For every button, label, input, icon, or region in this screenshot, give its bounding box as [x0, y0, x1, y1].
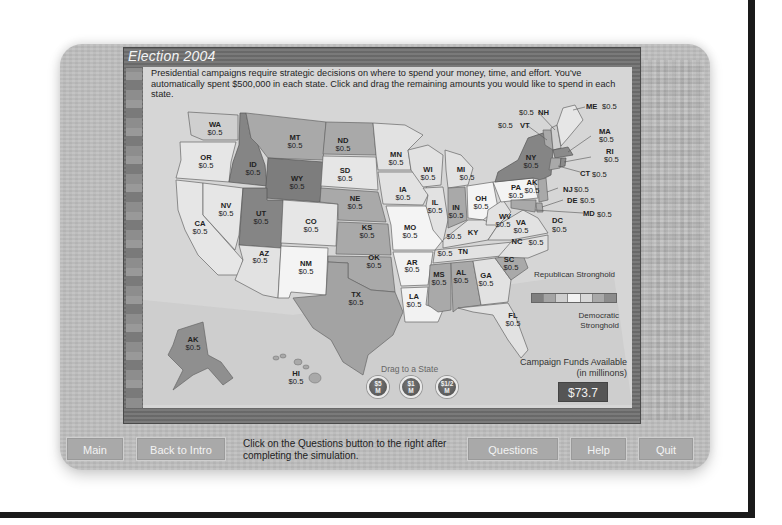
decorative-pattern [640, 60, 704, 420]
back-to-intro-button[interactable]: Back to Intro [136, 437, 226, 461]
coin-5m[interactable]: $5 M [367, 376, 389, 398]
svg-text:$0.5: $0.5 [438, 249, 453, 258]
svg-text:KY: KY [468, 228, 479, 237]
drag-instructions: Drag to a State [381, 364, 438, 374]
svg-text:NJ: NJ [563, 185, 573, 194]
footer-message: Click on the Questions button to the rig… [243, 438, 453, 462]
svg-text:$0.5: $0.5 [479, 279, 494, 288]
svg-text:$0.5: $0.5 [496, 220, 511, 229]
svg-text:NC: NC [512, 237, 523, 246]
svg-text:$0.5: $0.5 [199, 161, 214, 170]
instructions-text: Presidential campaigns require strategic… [151, 68, 631, 100]
page-right-border [748, 0, 755, 518]
svg-text:$0.5: $0.5 [208, 128, 223, 137]
svg-text:DC: DC [552, 216, 563, 225]
svg-text:$0.5: $0.5 [519, 108, 534, 117]
help-button[interactable]: Help [570, 437, 627, 461]
svg-text:$0.5: $0.5 [498, 121, 513, 130]
svg-text:$0.5: $0.5 [460, 173, 475, 182]
svg-text:VT: VT [520, 121, 530, 130]
legend-swatch [568, 294, 580, 302]
state-ME[interactable] [557, 105, 583, 146]
svg-text:NH: NH [538, 108, 549, 117]
svg-text:$0.5: $0.5 [474, 202, 489, 211]
svg-text:TN: TN [458, 247, 468, 256]
svg-text:ME: ME [586, 102, 597, 111]
svg-text:$0.5: $0.5 [360, 231, 375, 240]
window-title: Election 2004 [128, 47, 215, 66]
main-button[interactable]: Main [66, 437, 124, 461]
svg-text:$0.5: $0.5 [525, 186, 540, 195]
svg-text:$0.5: $0.5 [348, 202, 363, 211]
legend-democratic-label: Democratic Stronghold [563, 311, 619, 330]
state-RI[interactable] [560, 158, 566, 167]
quit-button[interactable]: Quit [638, 437, 694, 461]
svg-text:$0.5: $0.5 [449, 211, 464, 220]
coin-half-m[interactable]: $1/2 M [436, 376, 458, 398]
svg-text:$0.5: $0.5 [509, 191, 524, 200]
svg-text:$0.5: $0.5 [290, 182, 305, 191]
decorative-strip [126, 68, 142, 408]
svg-text:$0.5: $0.5 [506, 319, 521, 328]
svg-text:$0.5: $0.5 [407, 300, 422, 309]
svg-text:$0.5: $0.5 [524, 161, 539, 170]
state-CT[interactable] [549, 158, 561, 170]
svg-text:$0.5: $0.5 [186, 343, 201, 352]
svg-text:$0.5: $0.5 [602, 102, 617, 111]
svg-text:$0.5: $0.5 [367, 261, 382, 270]
svg-text:$0.5: $0.5 [396, 193, 411, 202]
page-bottom-border [0, 512, 755, 518]
svg-text:$0.5: $0.5 [428, 206, 443, 215]
svg-text:$0.5: $0.5 [288, 141, 303, 150]
svg-text:$0.5: $0.5 [447, 232, 462, 241]
campaign-funds-value: $73.7 [558, 382, 608, 402]
svg-text:$0.5: $0.5 [349, 298, 364, 307]
svg-text:$0.5: $0.5 [405, 265, 420, 274]
svg-text:$0.5: $0.5 [193, 227, 208, 236]
svg-text:$0.5: $0.5 [552, 225, 567, 234]
svg-text:$0.5: $0.5 [432, 278, 447, 287]
svg-text:$0.5: $0.5 [219, 209, 234, 218]
legend-swatch [544, 294, 556, 302]
svg-text:$0.5: $0.5 [299, 267, 314, 276]
svg-text:DE: DE [567, 196, 578, 205]
svg-text:$0.5: $0.5 [336, 144, 351, 153]
svg-text:$0.5: $0.5 [389, 158, 404, 167]
legend-swatch [556, 294, 568, 302]
svg-text:$0.5: $0.5 [592, 170, 607, 179]
legend-color-scale [531, 293, 617, 303]
svg-text:$0.5: $0.5 [574, 185, 589, 194]
legend-swatch [532, 294, 544, 302]
svg-text:$0.5: $0.5 [289, 377, 304, 386]
legend-swatch [581, 294, 593, 302]
svg-text:$0.5: $0.5 [246, 168, 261, 177]
svg-text:$0.5: $0.5 [580, 196, 595, 205]
legend-swatch [593, 294, 605, 302]
svg-text:$0.5: $0.5 [454, 276, 469, 285]
svg-text:$0.5: $0.5 [514, 226, 529, 235]
coin-1m[interactable]: $1 M [400, 376, 422, 398]
svg-text:$0.5: $0.5 [304, 225, 319, 234]
svg-text:$0.5: $0.5 [604, 155, 619, 164]
svg-text:$0.5: $0.5 [599, 135, 614, 144]
svg-text:$0.5: $0.5 [529, 238, 544, 247]
svg-text:$0.5: $0.5 [421, 173, 436, 182]
svg-text:MD: MD [583, 209, 595, 218]
svg-text:$0.5: $0.5 [253, 256, 268, 265]
svg-text:$0.5: $0.5 [254, 217, 269, 226]
state-MD[interactable] [511, 200, 536, 212]
svg-text:CT: CT [580, 169, 590, 178]
svg-text:$0.5: $0.5 [338, 174, 353, 183]
state-NJ[interactable] [538, 178, 548, 202]
svg-text:$0.5: $0.5 [504, 263, 519, 272]
svg-text:$0.5: $0.5 [597, 210, 612, 219]
questions-button[interactable]: Questions [467, 437, 559, 461]
campaign-funds-label: Campaign Funds Available (in millinons) [515, 357, 627, 379]
svg-text:$0.5: $0.5 [403, 231, 418, 240]
legend-swatch [605, 294, 616, 302]
legend-republican-label: Republican Stronghold [534, 270, 615, 280]
